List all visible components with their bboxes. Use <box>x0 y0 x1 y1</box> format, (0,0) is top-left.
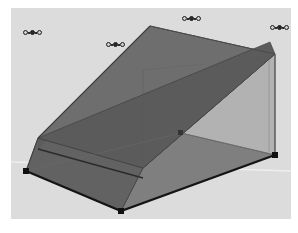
3d-scene[interactable] <box>11 8 291 219</box>
vertex-handle-floor-left[interactable] <box>23 168 29 174</box>
vertex-handle-floor-back[interactable] <box>178 130 183 135</box>
vertex-handle-floor-front[interactable] <box>118 208 124 214</box>
model-viewport[interactable] <box>11 8 291 219</box>
screenshot-root <box>0 0 298 233</box>
vertex-handle-floor-right[interactable] <box>272 152 278 158</box>
